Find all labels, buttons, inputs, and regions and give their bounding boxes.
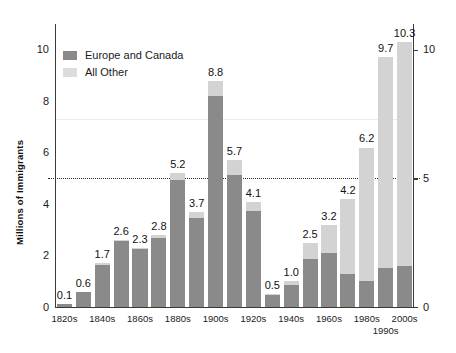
bar-value-label-1950s: 2.5	[302, 229, 317, 240]
bar-value-label-1860s: 2.3	[132, 234, 147, 245]
bar-1830s[interactable]	[76, 292, 91, 307]
bar-value-label-1840s: 1.7	[95, 249, 110, 260]
y-tick-label-left-2: 2	[23, 250, 49, 261]
y-tick-mark-right-10	[414, 50, 418, 51]
bar-1910s[interactable]	[227, 160, 242, 307]
bar-1980s[interactable]	[359, 148, 374, 308]
bar-value-label-1900s: 8.8	[208, 67, 223, 78]
bar-segment-europe-and-canada-2000s	[397, 266, 412, 307]
bar-segment-europe-and-canada-1910s	[227, 175, 242, 307]
bar-1920s[interactable]	[246, 202, 261, 307]
bar-1900s[interactable]	[208, 81, 223, 307]
bar-segment-all-other-1910s	[227, 160, 242, 174]
immigration-stacked-bar-chart: Millions of Immigrants 1086420 1050 1820…	[0, 0, 456, 353]
y-tick-label-right-5: 5	[423, 173, 449, 184]
x-tick-label-1820s: 1820s	[51, 313, 77, 324]
x-axis-labels: 1820s1840s1860s1880s1900s1920s1940s1960s…	[55, 311, 414, 351]
x-tick-label-2000s: 2000s	[392, 313, 418, 324]
bar-value-label-1820s: 0.1	[57, 290, 72, 301]
x-tick-label-1920s: 1920s	[240, 313, 266, 324]
y-tick-mark-right-0	[414, 307, 418, 308]
x-tick-label-1840s: 1840s	[89, 313, 115, 324]
chart-legend: Europe and Canada All Other	[63, 50, 183, 84]
bar-segment-all-other-1960s	[321, 225, 336, 253]
bar-segment-all-other-2000s	[397, 42, 412, 266]
bar-segment-europe-and-canada-1920s	[246, 211, 261, 307]
legend-swatch-icon-europe-and-canada	[63, 51, 77, 60]
bar-1880s[interactable]	[170, 173, 185, 307]
bar-value-label-1930s: 0.5	[265, 280, 280, 291]
y-tick-mark-right-5	[414, 178, 418, 179]
bar-segment-europe-and-canada-1850s	[114, 241, 129, 307]
bar-value-label-1980s: 6.2	[359, 133, 374, 144]
y-tick-label-left-6: 6	[23, 147, 49, 158]
bar-1850s[interactable]	[114, 240, 129, 307]
bar-segment-europe-and-canada-1870s	[151, 238, 166, 307]
y-tick-label-left-4: 4	[23, 199, 49, 210]
bar-segment-all-other-1950s	[303, 243, 318, 260]
bar-segment-europe-and-canada-1990s	[378, 268, 393, 307]
bar-segment-europe-and-canada-1930s	[265, 295, 280, 307]
bar-segment-all-other-1990s	[378, 57, 393, 268]
bar-1840s[interactable]	[95, 263, 110, 307]
bar-value-label-1910s: 5.7	[227, 146, 242, 157]
bar-value-label-1890s: 3.7	[189, 198, 204, 209]
y-tick-label-right-0: 0	[423, 302, 449, 313]
bar-2000s[interactable]	[397, 42, 412, 307]
bar-1860s[interactable]	[132, 248, 147, 307]
y-tick-label-left-8: 8	[23, 96, 49, 107]
bar-value-label-1880s: 5.2	[170, 159, 185, 170]
bar-1890s[interactable]	[189, 212, 204, 307]
bar-value-label-1960s: 3.2	[321, 211, 336, 222]
bar-segment-europe-and-canada-1860s	[132, 249, 147, 307]
bar-1870s[interactable]	[151, 235, 166, 307]
bar-1820s[interactable]	[57, 304, 72, 307]
bar-segment-europe-and-canada-1950s	[303, 259, 318, 307]
legend-item-all-other: All Other	[63, 67, 183, 78]
bar-1970s[interactable]	[340, 199, 355, 307]
y-tick-label-right-10: 10	[423, 44, 449, 55]
legend-label-all-other: All Other	[85, 67, 128, 78]
bar-segment-europe-and-canada-1890s	[189, 218, 204, 307]
bar-value-label-1970s: 4.2	[340, 185, 355, 196]
bar-1930s[interactable]	[265, 294, 280, 307]
x-tick-label-1980s: 1980s	[354, 313, 380, 324]
bar-segment-europe-and-canada-1900s	[208, 96, 223, 307]
bar-segment-europe-and-canada-1830s	[76, 292, 91, 307]
bar-segment-all-other-1970s	[340, 199, 355, 274]
bar-1990s[interactable]	[378, 57, 393, 307]
bar-segment-europe-and-canada-1980s	[359, 281, 374, 307]
bar-segment-all-other-1980s	[359, 148, 374, 282]
legend-swatch-icon-all-other	[63, 68, 77, 77]
x-tick-label-1880s: 1880s	[165, 313, 191, 324]
bar-value-label-1940s: 1.0	[284, 267, 299, 278]
bar-segment-all-other-1900s	[208, 81, 223, 96]
bar-value-label-1990s: 9.7	[378, 43, 393, 54]
x-tick-label-1960s: 1960s	[316, 313, 342, 324]
bar-segment-europe-and-canada-1960s	[321, 253, 336, 307]
bar-segment-europe-and-canada-1970s	[340, 274, 355, 307]
bar-segment-europe-and-canada-1880s	[170, 180, 185, 307]
x-tick-label-1860s: 1860s	[127, 313, 153, 324]
bar-value-label-1830s: 0.6	[76, 278, 91, 289]
bar-1950s[interactable]	[303, 243, 318, 307]
y-tick-label-left-0: 0	[23, 302, 49, 313]
bar-value-label-1920s: 4.1	[246, 188, 261, 199]
bar-value-label-2000s: 10.3	[394, 28, 415, 39]
bar-1940s[interactable]	[284, 281, 299, 307]
legend-label-europe-and-canada: Europe and Canada	[85, 50, 183, 61]
bar-value-label-1850s: 2.6	[113, 226, 128, 237]
bar-segment-europe-and-canada-1940s	[284, 285, 299, 307]
bar-1960s[interactable]	[321, 225, 336, 307]
x-tick-label-1990s: 1990s	[373, 325, 399, 336]
legend-item-europe-and-canada: Europe and Canada	[63, 50, 183, 61]
x-tick-label-1900s: 1900s	[203, 313, 229, 324]
x-tick-label-1940s: 1940s	[278, 313, 304, 324]
bar-value-label-1870s: 2.8	[151, 221, 166, 232]
bar-segment-europe-and-canada-1840s	[95, 265, 110, 307]
y-tick-label-left-10: 10	[23, 44, 49, 55]
bar-segment-all-other-1920s	[246, 202, 261, 211]
bar-segment-europe-and-canada-1820s	[57, 304, 72, 307]
